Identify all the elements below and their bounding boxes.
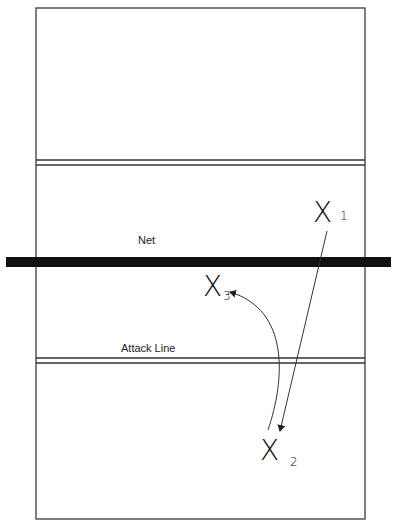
player-x1-number: 1 (340, 209, 348, 223)
net-label: Net (138, 234, 155, 246)
lower-attack-line (36, 358, 365, 363)
attack-line-label: Attack Line (121, 342, 175, 354)
player-x2-number: 2 (290, 455, 298, 469)
player-x1: X 1 (313, 199, 332, 227)
upper-attack-line (36, 160, 365, 165)
net-bar (6, 257, 391, 267)
player-x3: X 3 (203, 273, 222, 301)
player-x2: X 2 (260, 437, 279, 465)
player-x3-symbol: X (203, 270, 222, 303)
player-x1-symbol: X (313, 196, 332, 229)
arrow-x2-to-x3 (230, 292, 279, 430)
court-diagram (0, 0, 395, 527)
player-x3-number: 3 (223, 289, 231, 303)
player-x2-symbol: X (260, 434, 279, 467)
